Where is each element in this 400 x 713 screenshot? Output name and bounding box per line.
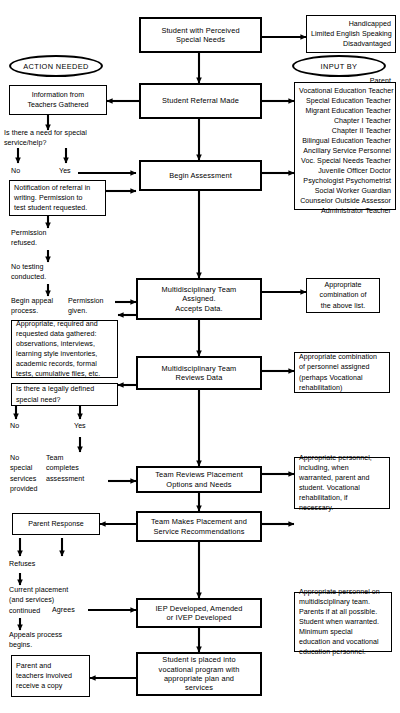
note-notification-of-referral: Notification of referral in writing. Per… bbox=[9, 180, 106, 216]
input-by-item-0: Parent bbox=[299, 76, 391, 86]
category-limited-english: Limited English Speaking bbox=[311, 29, 391, 39]
input-by-item-13: Administrator Teacher bbox=[299, 206, 391, 216]
note-appropriate-combination-of-above-list: Appropriate combination of the above lis… bbox=[306, 278, 380, 313]
label-refuses: Refuses bbox=[9, 559, 35, 569]
process-iep-developed: IEP Developed, Amended or IVEP Developed bbox=[136, 598, 262, 628]
label-current-placement-continued: Current placement (and services) continu… bbox=[9, 585, 68, 616]
label-appeals-process-begins: Appeals process begins. bbox=[9, 630, 62, 651]
note-data-gathered: Appropriate, required and requested data… bbox=[11, 320, 118, 378]
note-appropriate-personnel: Appropriate personnel, including, when w… bbox=[294, 457, 390, 509]
label-permission-given: Permission given. bbox=[68, 296, 104, 317]
input-by-item-3: Migrant Education Teacher bbox=[299, 106, 391, 116]
input-by-item-6: Bilingual Education Teacher bbox=[299, 136, 391, 146]
process-student-referral-made: Student Referral Made bbox=[139, 83, 262, 119]
category-handicapped: Handicapped bbox=[311, 19, 391, 29]
input-by-item-10: Psychologist Psychometrist bbox=[299, 176, 391, 186]
process-team-makes-placement-recommendations: Team Makes Placement and Service Recomme… bbox=[136, 511, 262, 542]
label-no-testing-conducted: No testing conducted. bbox=[11, 262, 46, 283]
flowchart-canvas: Student with Perceived Special Needs Han… bbox=[0, 0, 400, 713]
label-no-1: No bbox=[11, 166, 20, 176]
label-team-completes-assessment: Team completes assessment bbox=[46, 453, 84, 484]
input-by-item-5: Chapter II Teacher bbox=[299, 126, 391, 136]
input-by-item-11: Social Worker Guardian bbox=[299, 186, 391, 196]
note-student-categories: Handicapped Limited English Speaking Dis… bbox=[306, 15, 396, 53]
process-begin-assessment: Begin Assessment bbox=[139, 160, 262, 191]
note-multidisciplinary-personnel: Appropriate personnel on multidisciplina… bbox=[294, 592, 392, 652]
label-no-2: No bbox=[10, 421, 19, 431]
note-parent-response: Parent Response bbox=[12, 513, 100, 535]
label-need-for-special-service-question: Is there a need for special service/help… bbox=[4, 128, 122, 149]
label-yes-1: Yes bbox=[59, 166, 71, 176]
process-student-with-perceived-special-needs: Student with Perceived Special Needs bbox=[139, 17, 262, 53]
input-by-item-8: Voc. Special Needs Teacher bbox=[299, 156, 391, 166]
process-multidisciplinary-team-reviews-data: Multidisciplinary Team Reviews Data bbox=[136, 356, 262, 390]
note-input-by-personnel-list: Parent Vocational Education Teacher Spec… bbox=[294, 82, 396, 210]
note-parent-and-teachers-receive-copy: Parent and teachers involved receive a c… bbox=[11, 655, 90, 697]
input-by-item-4: Chapter I Teacher bbox=[299, 116, 391, 126]
process-student-placed-vocational-program: Student is placed into vocational progra… bbox=[136, 652, 262, 696]
label-no-special-services-provided: No special services provided bbox=[10, 453, 38, 494]
oval-action-needed: ACTION NEEDED bbox=[9, 55, 103, 77]
note-information-from-teachers-gathered: Information from Teachers Gathered bbox=[9, 85, 107, 115]
label-permission-refused: Permission refused. bbox=[11, 228, 47, 249]
oval-input-by: INPUT BY bbox=[292, 55, 386, 77]
note-personnel-assigned: Appropriate combination of personnel ass… bbox=[294, 352, 390, 393]
process-team-reviews-placement-options: Team Reviews Placement Options and Needs bbox=[136, 466, 262, 493]
input-by-item-7: Ancillary Service Personnel bbox=[299, 146, 391, 156]
input-by-item-1: Vocational Education Teacher bbox=[299, 86, 391, 96]
input-by-item-2: Special Education Teacher bbox=[299, 96, 391, 106]
process-multidisciplinary-team-assigned: Multidisciplinary Team Assigned. Accepts… bbox=[136, 278, 262, 320]
label-begin-appeal-process: Begin appeal process. bbox=[11, 296, 53, 317]
category-disadvantaged: Disadvantaged bbox=[311, 39, 391, 49]
input-by-item-12: Counselor Outside Assessor bbox=[299, 196, 391, 206]
note-legally-defined-special-need-question: Is there a legally defined special need? bbox=[11, 383, 118, 406]
input-by-item-9: Juvenile Officer Doctor bbox=[299, 166, 391, 176]
label-yes-2: Yes bbox=[74, 421, 86, 431]
